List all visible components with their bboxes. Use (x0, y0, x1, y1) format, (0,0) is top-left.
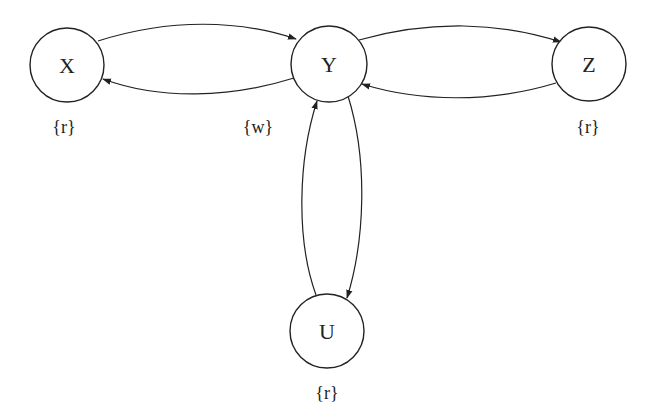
node-u-annotation: {r} (315, 383, 338, 403)
edge-y-to-u (347, 96, 362, 298)
node-z-annotation: {r} (576, 117, 599, 137)
edge-x-to-y (98, 24, 296, 41)
node-x-annotation: {r} (52, 117, 75, 137)
node-y-annotation: {w} (243, 117, 273, 137)
node-y: Y (291, 26, 367, 102)
node-u: U (290, 294, 364, 368)
node-u-label: U (319, 319, 335, 344)
edge-y-to-z (359, 26, 561, 42)
graph-canvas: X {r} Y {w} Z {r} U {r} (0, 0, 656, 420)
edge-u-to-y (302, 101, 317, 295)
node-z: Z (552, 27, 626, 101)
edge-z-to-y (362, 83, 556, 98)
node-x: X (30, 28, 104, 102)
node-y-label: Y (321, 52, 337, 77)
edge-y-to-x (103, 78, 294, 94)
node-z-label: Z (582, 52, 595, 77)
node-x-label: X (59, 53, 75, 78)
